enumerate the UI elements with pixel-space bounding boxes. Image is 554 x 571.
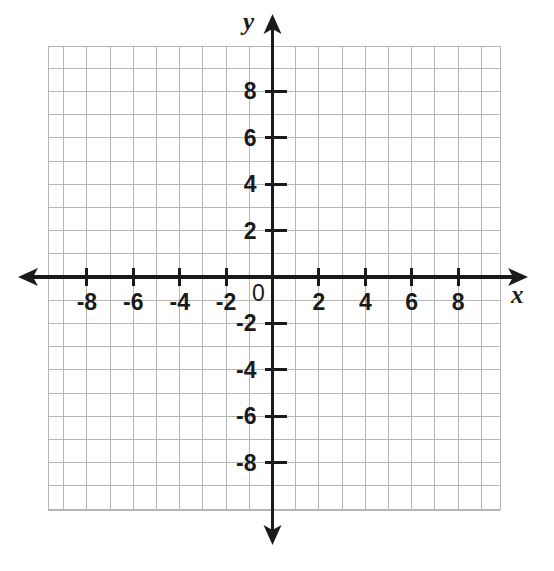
y-axis-tick-label: 4 [244, 171, 257, 197]
coordinate-plane-figure: -8-6-4-22468 8642-2-4-6-8 0 x y [0, 0, 554, 571]
x-axis-label: x [510, 281, 524, 308]
x-axis-tick-label: -8 [77, 289, 98, 315]
y-axis-tick-label: 6 [244, 125, 257, 151]
x-axis-tick-label: -6 [123, 289, 143, 315]
coordinate-plane-svg: -8-6-4-22468 8642-2-4-6-8 0 x y [0, 0, 554, 571]
y-axis-tick-label: 2 [244, 218, 257, 244]
y-axis-tick-label: -4 [236, 357, 257, 383]
x-axis-tick-label: 4 [359, 289, 372, 315]
y-axis-tick-label: -8 [236, 450, 257, 476]
origin-label: 0 [252, 280, 265, 306]
y-axis-label: y [240, 8, 255, 35]
y-axis-tick-label: -6 [236, 403, 256, 429]
x-axis-tick-label: -4 [169, 289, 190, 315]
x-axis-tick-label: 2 [313, 289, 326, 315]
x-axis-tick-label: 8 [452, 289, 465, 315]
y-axis-tick-label: 8 [244, 78, 257, 104]
x-axis-tick-label: -2 [216, 289, 236, 315]
x-axis-tick-label: 6 [405, 289, 418, 315]
y-axis-tick-label: -2 [236, 310, 256, 336]
